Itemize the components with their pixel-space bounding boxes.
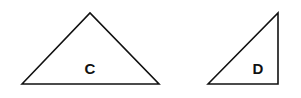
diagram-canvas: C D bbox=[0, 0, 301, 98]
triangle-c-label: C bbox=[85, 60, 96, 77]
triangle-d bbox=[208, 13, 278, 84]
triangle-d-label: D bbox=[253, 60, 264, 77]
